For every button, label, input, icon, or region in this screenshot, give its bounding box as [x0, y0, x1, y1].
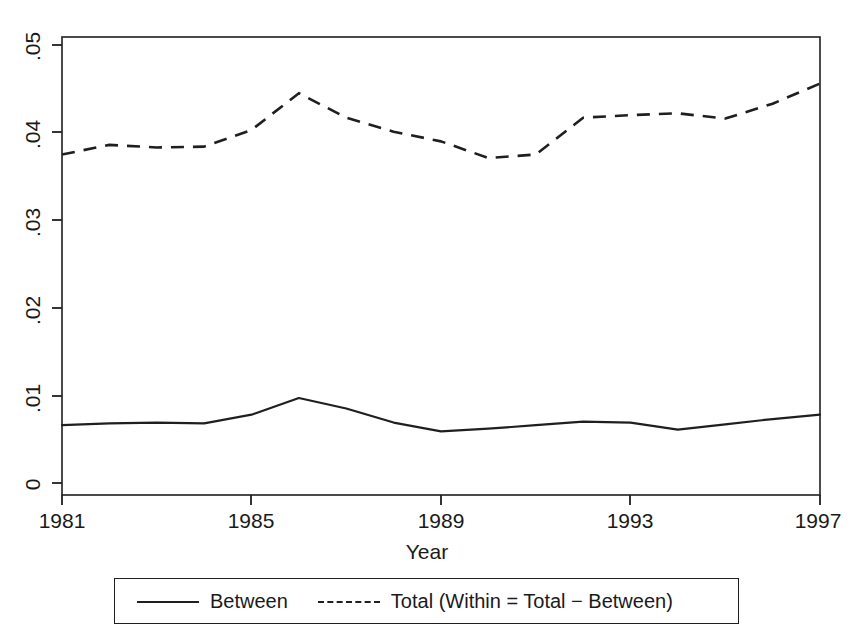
x-axis-ticks: [62, 495, 820, 505]
x-axis-title: Year: [0, 541, 854, 562]
series-line-total: [62, 84, 820, 158]
y-axis-ticks: [52, 45, 62, 483]
x-tick-label-4: 1997: [795, 510, 842, 531]
series-line-between: [62, 398, 820, 431]
x-tick-label-2: 1989: [418, 510, 465, 531]
legend-entry-total: Total (Within = Total − Between): [318, 591, 673, 611]
legend-label-total: Total (Within = Total − Between): [391, 591, 673, 611]
chart-figure: .05 .04 .03 .02 .01 0 1981 1985 1: [0, 0, 854, 643]
legend-key-dashed-line: [318, 594, 380, 608]
x-tick-label-1: 1985: [228, 510, 275, 531]
legend-label-between: Between: [210, 591, 288, 611]
chart-legend: Between Total (Within = Total − Between): [114, 578, 739, 624]
x-tick-label-3: 1993: [607, 510, 654, 531]
x-tick-label-0: 1981: [39, 510, 86, 531]
legend-key-solid-line: [137, 594, 199, 608]
legend-entry-between: Between: [137, 591, 288, 611]
